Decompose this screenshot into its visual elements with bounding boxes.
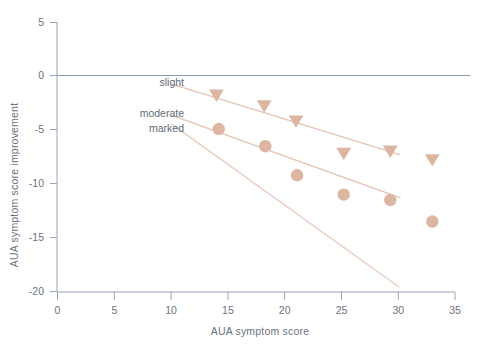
data-point-circle — [213, 123, 225, 135]
data-point-circle — [291, 169, 303, 181]
y-tick-label-0: 0 — [38, 69, 44, 81]
x-tick-label-15: 15 — [222, 304, 234, 316]
x-axis-title: AUA symptom score — [211, 325, 310, 337]
series-label-marked: marked — [149, 122, 184, 134]
x-tick-label-5: 5 — [111, 304, 117, 316]
y-tick-label-minus5: -5 — [35, 123, 44, 135]
x-tick-label-25: 25 — [336, 304, 348, 316]
y-axis-title: AUA symptom score improvement — [8, 103, 20, 268]
y-tick-label-minus10: -10 — [29, 177, 44, 189]
chart-figure: 5 0 -5 -10 -15 -20 0 5 10 15 20 25 30 35… — [0, 0, 479, 349]
chart-background — [0, 0, 479, 349]
data-point-circle — [259, 140, 271, 152]
data-point-circle — [338, 188, 350, 200]
series-label-moderate: moderate — [140, 107, 185, 119]
data-point-circle — [384, 194, 396, 206]
data-point-circle — [426, 215, 438, 227]
y-tick-label-minus15: -15 — [29, 231, 44, 243]
x-tick-label-0: 0 — [55, 304, 61, 316]
x-tick-label-10: 10 — [165, 304, 177, 316]
y-tick-label-5: 5 — [38, 16, 44, 28]
x-tick-label-35: 35 — [449, 304, 461, 316]
x-tick-label-30: 30 — [392, 304, 404, 316]
x-tick-label-20: 20 — [279, 304, 291, 316]
y-tick-label-minus20: -20 — [29, 285, 44, 297]
series-label-slight: slight — [159, 76, 184, 88]
